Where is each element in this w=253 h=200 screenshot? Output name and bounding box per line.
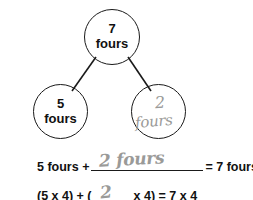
equation-words-blank[interactable]: 2 fours — [91, 156, 203, 171]
bond-node-total-number: 7 — [108, 22, 115, 37]
bond-node-part-right-number-handwritten: 2 — [154, 93, 165, 112]
bond-node-part-left-unit: fours — [44, 112, 77, 127]
equation-numbers-left-term: (5 x 4) + ( — [37, 189, 92, 200]
number-bond-diagram: 7 fours 5 fours 2 fours — [0, 0, 253, 145]
equation-numbers-blank[interactable]: 2 — [92, 188, 134, 200]
bond-node-part-right-unit-handwritten: fours — [134, 111, 173, 131]
connector-line-left — [72, 57, 96, 91]
equation-words-left-term: 5 fours + — [37, 160, 89, 174]
bond-node-total-unit: fours — [96, 37, 129, 52]
equation-numbers-blank-answer-handwritten: 2 — [99, 181, 113, 200]
bond-node-part-right[interactable]: 2 fours — [131, 84, 186, 139]
equation-words-blank-answer-handwritten: 2 fours — [99, 147, 165, 170]
equation-numbers-row: (5 x 4) + (2x 4) = 7 x 4 — [0, 188, 253, 200]
math-worksheet-number-bond: 7 fours 5 fours 2 fours 5 fours +2 fours… — [0, 0, 253, 200]
bond-node-total: 7 fours — [84, 9, 140, 65]
bond-node-part-left-number: 5 — [57, 97, 64, 112]
equation-words-right-term: = 7 fours — [205, 160, 253, 174]
equation-numbers-right-term: x 4) = 7 x 4 — [134, 189, 198, 200]
bond-node-part-left: 5 fours — [33, 84, 88, 139]
equation-words-row: 5 fours +2 fours= 7 fours — [0, 156, 253, 174]
